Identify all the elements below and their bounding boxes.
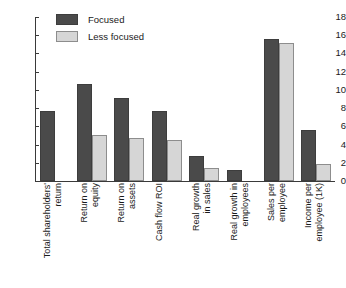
x-axis-label: employees bbox=[240, 183, 251, 287]
bar-group bbox=[260, 17, 297, 181]
bar bbox=[77, 84, 92, 181]
legend-item: Focused bbox=[56, 13, 144, 26]
legend-label: Less focused bbox=[88, 32, 144, 42]
legend-swatch-less bbox=[56, 31, 78, 42]
x-axis-label: equity bbox=[90, 183, 101, 287]
bar bbox=[167, 140, 182, 181]
x-axis-label-group: Total shareholders'return bbox=[36, 183, 73, 287]
chart-legend: FocusedLess focused bbox=[56, 13, 144, 47]
x-axis-label: Real growth in bbox=[229, 183, 240, 287]
legend-item: Less focused bbox=[56, 30, 144, 43]
x-axis-labels: Total shareholders'returnReturn onequity… bbox=[36, 183, 335, 287]
bar bbox=[40, 111, 55, 181]
bar bbox=[114, 98, 129, 181]
x-axis-label: Total shareholders' bbox=[42, 183, 53, 287]
x-axis-label-group: Return onassets bbox=[111, 183, 148, 287]
bar-group bbox=[298, 17, 335, 181]
x-axis-label-group: Return onequity bbox=[73, 183, 110, 287]
bar-group bbox=[186, 17, 223, 181]
x-axis-label: Real growth bbox=[191, 183, 202, 287]
x-axis-label-group: Sales peremployee bbox=[260, 183, 297, 287]
x-axis-label-group: Income peremployee (1K) bbox=[298, 183, 335, 287]
x-axis-label: return bbox=[53, 183, 64, 287]
legend-swatch-focused bbox=[56, 14, 78, 25]
bar bbox=[301, 130, 316, 181]
bar bbox=[92, 135, 107, 181]
bar bbox=[129, 138, 144, 181]
x-axis-label-group: Real growthin sales bbox=[186, 183, 223, 287]
bar bbox=[316, 164, 331, 181]
x-axis-label: Cash flow ROI bbox=[154, 183, 165, 287]
bar bbox=[189, 156, 204, 181]
x-axis-label-group: Cash flow ROI bbox=[148, 183, 185, 287]
x-axis-label: Return on bbox=[79, 183, 90, 287]
x-axis-label-group: Real growth inemployees bbox=[223, 183, 260, 287]
bar bbox=[152, 111, 167, 181]
bar-chart: 024681012141618 Total shareholders'retur… bbox=[0, 0, 346, 288]
x-axis-label: Return on bbox=[116, 183, 127, 287]
bar bbox=[279, 43, 294, 181]
x-axis-label: in sales bbox=[202, 183, 213, 287]
x-axis-label: employee bbox=[277, 183, 288, 287]
legend-label: Focused bbox=[88, 15, 124, 25]
bar bbox=[227, 170, 242, 181]
x-axis-label: Sales per bbox=[266, 183, 277, 287]
x-axis-label: employee (1K) bbox=[314, 183, 325, 287]
x-axis-line bbox=[35, 181, 335, 182]
bar bbox=[204, 168, 219, 181]
x-axis-label: Income per bbox=[303, 183, 314, 287]
bar-group bbox=[148, 17, 185, 181]
bar-group bbox=[223, 17, 260, 181]
bar bbox=[264, 39, 279, 181]
x-axis-label: assets bbox=[127, 183, 138, 287]
